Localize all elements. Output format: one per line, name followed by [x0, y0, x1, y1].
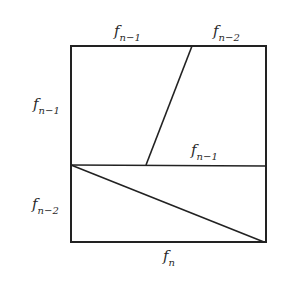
- label-left-lower: fn−2: [32, 195, 59, 215]
- label-top-right: fn−2: [213, 22, 240, 42]
- label-top-left: fn−1: [114, 22, 141, 42]
- label-left-upper: fn−1: [33, 95, 60, 115]
- slanted-cut-line: [146, 46, 192, 165]
- label-middle-right: fn−1: [191, 141, 218, 161]
- middle-horizontal-line: [71, 165, 266, 166]
- diagonal-cut-line: [71, 165, 264, 242]
- dissection-figure: [0, 0, 283, 283]
- outer-square: [71, 46, 266, 242]
- label-bottom: fn: [163, 247, 175, 267]
